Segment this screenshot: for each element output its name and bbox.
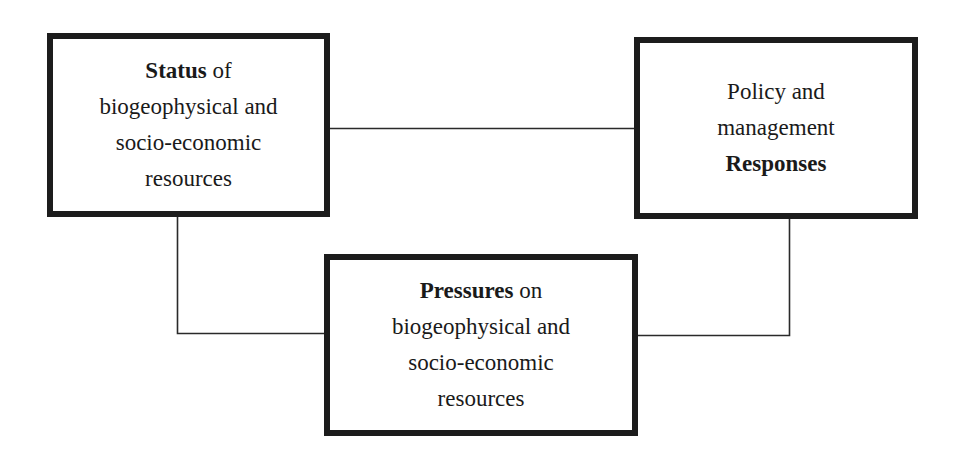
- status-line-4: resources: [99, 161, 277, 197]
- status-line-2: biogeophysical and: [99, 89, 277, 125]
- edge-status-pressures: [178, 217, 325, 334]
- pressures-box-text: Pressures on biogeophysical and socio-ec…: [392, 273, 570, 417]
- pressures-line-1-rest: on: [513, 278, 542, 303]
- pressures-line-3: socio-economic: [392, 345, 570, 381]
- pressures-keyword: Pressures: [420, 278, 514, 303]
- pressures-line-4: resources: [392, 381, 570, 417]
- responses-line-2: management: [717, 110, 835, 146]
- responses-keyword: Responses: [717, 146, 835, 182]
- pressures-box: Pressures on biogeophysical and socio-ec…: [324, 254, 638, 436]
- status-line-1-rest: of: [207, 58, 232, 83]
- responses-box-text: Policy and management Responses: [717, 74, 835, 182]
- diagram-canvas: Status of biogeophysical and socio-econo…: [0, 0, 960, 459]
- responses-line-1: Policy and: [717, 74, 835, 110]
- status-box: Status of biogeophysical and socio-econo…: [47, 33, 330, 217]
- pressures-line-2: biogeophysical and: [392, 309, 570, 345]
- status-line-1: Status of: [99, 53, 277, 89]
- responses-box: Policy and management Responses: [634, 37, 918, 219]
- status-line-3: socio-economic: [99, 125, 277, 161]
- status-keyword: Status: [145, 58, 206, 83]
- pressures-line-1: Pressures on: [392, 273, 570, 309]
- edge-responses-pressures: [638, 219, 790, 336]
- status-box-text: Status of biogeophysical and socio-econo…: [99, 53, 277, 197]
